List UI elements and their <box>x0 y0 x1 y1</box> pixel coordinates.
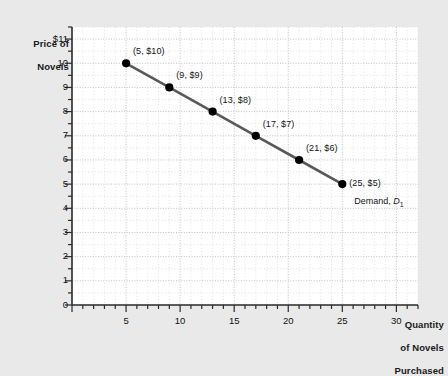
x-tick-label-5: 5 <box>123 315 128 326</box>
y-tick-label-3: 3 <box>63 226 68 237</box>
y-tick-label-1: 1 <box>63 274 68 285</box>
point-label-4: (21, $6) <box>306 143 337 153</box>
y-tick-label-9: 9 <box>63 81 68 92</box>
y-tick-label-7: 7 <box>63 129 68 140</box>
x-tick-label-25: 25 <box>337 315 348 326</box>
point-label-2: (13, $8) <box>220 95 251 105</box>
y-tick-label-11: $11 <box>53 33 68 44</box>
y-tick-label-4: 4 <box>63 202 68 213</box>
x-tick-label-15: 15 <box>229 315 240 326</box>
series-label-subscript: 1 <box>400 201 404 208</box>
point-label-3: (17, $7) <box>263 119 294 129</box>
origin-label: 0 <box>63 299 68 310</box>
x-axis-ticks <box>72 305 418 312</box>
y-tick-label-8: 8 <box>63 105 68 116</box>
x-tick-label-20: 20 <box>283 315 294 326</box>
x-axis-title-line-3: Purchased <box>395 365 444 376</box>
point-label-5: (25, $5) <box>349 178 380 188</box>
x-tick-label-10: 10 <box>175 315 186 326</box>
x-tick-label-30: 30 <box>391 315 402 326</box>
x-axis-title-line-1: Quantity <box>405 319 444 330</box>
y-tick-label-10: 10 <box>57 57 68 68</box>
series-legend-label: Demand, D1 <box>354 196 403 208</box>
y-tick-label-5: 5 <box>63 178 68 189</box>
y-tick-label-2: 2 <box>63 250 68 261</box>
point-label-1: (9, $9) <box>176 70 202 80</box>
point-label-0: (5, $10) <box>133 46 164 56</box>
series-label-prefix: Demand, <box>354 196 393 206</box>
x-axis-title-line-2: of Novels <box>400 342 444 353</box>
y-tick-label-6: 6 <box>63 153 68 164</box>
